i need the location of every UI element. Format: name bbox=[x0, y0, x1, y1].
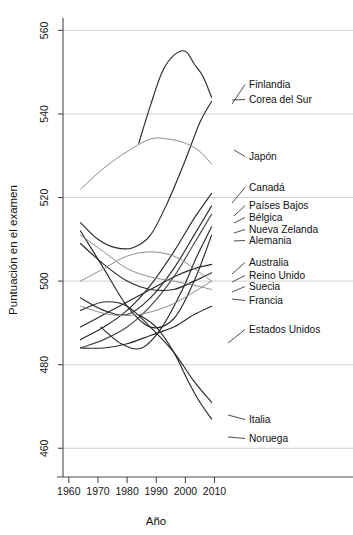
leader-line-11 bbox=[232, 299, 245, 301]
x-axis-title: Año bbox=[146, 515, 166, 527]
series-line-14 bbox=[139, 315, 212, 419]
y-tick-labels-group: 460480500520540560 bbox=[38, 21, 50, 457]
series-label-5: Bélgica bbox=[249, 212, 283, 223]
series-label-4: Países Bajos bbox=[249, 200, 308, 211]
y-axis-title: Puntuación en el examen bbox=[7, 185, 19, 315]
leader-line-5 bbox=[234, 218, 245, 224]
series-label-2: Japón bbox=[249, 151, 277, 162]
series-line-0 bbox=[139, 51, 212, 143]
series-line-8 bbox=[80, 264, 211, 327]
leader-line-8 bbox=[232, 263, 245, 275]
series-line-2 bbox=[80, 138, 211, 189]
x-tick-label-1960: 1960 bbox=[57, 485, 81, 497]
exam-score-line-chart: 460480500520540560 196019701980199020002… bbox=[0, 0, 353, 535]
series-label-12: Estados Unidos bbox=[249, 324, 320, 335]
leader-line-10 bbox=[232, 287, 245, 293]
leader-line-12 bbox=[228, 330, 245, 344]
series-group bbox=[80, 51, 211, 419]
leader-line-3 bbox=[232, 188, 245, 204]
x-tick-label-1990: 1990 bbox=[145, 485, 169, 497]
y-tick-label-500: 500 bbox=[38, 272, 50, 290]
series-label-8: Australia bbox=[249, 257, 289, 268]
series-label-9: Reino Unido bbox=[249, 270, 305, 281]
series-label-0: Finlandia bbox=[249, 79, 291, 90]
series-label-14: Noruega bbox=[249, 433, 288, 444]
y-tick-label-480: 480 bbox=[38, 356, 50, 374]
series-line-10 bbox=[80, 252, 211, 281]
series-label-11: Francia bbox=[249, 295, 283, 306]
series-line-1 bbox=[80, 101, 211, 249]
leader-lines-group bbox=[228, 85, 245, 439]
series-label-3: Canadá bbox=[249, 182, 285, 193]
x-tick-label-2010: 2010 bbox=[203, 485, 227, 497]
series-label-13: Italia bbox=[249, 414, 271, 425]
series-label-7: Alemania bbox=[249, 235, 292, 246]
series-line-6 bbox=[101, 227, 212, 349]
leader-line-14 bbox=[228, 437, 245, 439]
leader-line-2 bbox=[234, 150, 245, 157]
series-labels-group: FinlandiaCorea del SurJapónCanadáPaíses … bbox=[249, 79, 320, 444]
y-tick-label-540: 540 bbox=[38, 105, 50, 123]
x-tick-label-2000: 2000 bbox=[174, 485, 198, 497]
y-tick-label-460: 460 bbox=[38, 439, 50, 457]
x-tick-label-1970: 1970 bbox=[86, 485, 110, 497]
series-label-1: Corea del Sur bbox=[249, 94, 312, 105]
series-label-6: Nueva Zelanda bbox=[249, 224, 318, 235]
chart-canvas: 460480500520540560 196019701980199020002… bbox=[0, 0, 353, 535]
series-label-10: Suecia bbox=[249, 281, 280, 292]
y-tick-label-520: 520 bbox=[38, 189, 50, 207]
leader-line-6 bbox=[234, 230, 245, 234]
leader-line-7 bbox=[234, 241, 245, 242]
leader-line-13 bbox=[228, 415, 245, 420]
y-tick-label-560: 560 bbox=[38, 21, 50, 39]
leader-line-1 bbox=[232, 100, 245, 101]
leader-line-4 bbox=[234, 206, 245, 217]
x-tick-label-1980: 1980 bbox=[115, 485, 139, 497]
leader-line-0 bbox=[232, 85, 245, 105]
x-tick-labels-group: 196019701980199020002010 bbox=[57, 485, 226, 497]
